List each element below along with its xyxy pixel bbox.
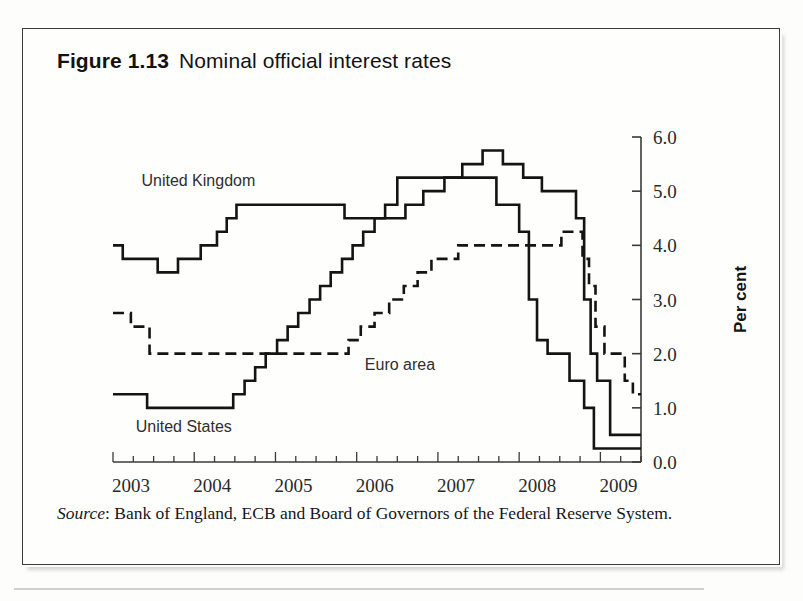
y-axis-tick-label: 1.0 [653,398,677,419]
figure-title-text: Nominal official interest rates [169,49,451,72]
figure-number: Figure 1.13 [57,49,169,72]
y-axis-tick-label: 5.0 [653,181,677,202]
series-label-united-states: United States [136,418,232,435]
x-axis-tick-label: 2008 [518,475,556,496]
y-axis-tick-label: 2.0 [653,344,677,365]
figure-box: Figure 1.13Nominal official interest rat… [22,28,780,565]
y-axis-title: Per cent [731,266,750,333]
x-axis-tick-label: 2006 [356,475,394,496]
y-axis-tick-label: 0.0 [653,452,677,473]
source-label: Source [57,503,105,523]
chart-plot-area: 0.01.02.03.04.05.06.0Per cent20032004200… [23,89,781,499]
source-note: Source: Bank of England, ECB and Board o… [57,501,747,526]
series-label-united-kingdom: United Kingdom [141,172,255,189]
series-line-united-kingdom [113,151,641,435]
y-axis-tick-label: 4.0 [653,235,677,256]
source-text: Bank of England, ECB and Board of Govern… [110,503,672,523]
x-axis-tick-label: 2004 [193,475,232,496]
y-axis-tick-label: 6.0 [653,127,677,148]
page-bottom-rule [14,588,704,590]
x-axis-tick-label: 2003 [112,475,150,496]
x-axis-tick-label: 2009 [599,475,637,496]
figure-title: Figure 1.13Nominal official interest rat… [57,49,451,73]
series-label-euro-area: Euro area [365,356,435,373]
y-axis-tick-label: 3.0 [653,290,677,311]
page-root: Figure 1.13Nominal official interest rat… [0,0,803,601]
x-axis-tick-label: 2007 [437,475,475,496]
x-axis-tick-label: 2005 [274,475,312,496]
chart-series-group [113,151,641,449]
interest-rates-line-chart: 0.01.02.03.04.05.06.0Per cent20032004200… [23,89,781,499]
